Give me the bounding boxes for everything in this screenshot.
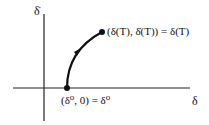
start-point — [64, 85, 70, 91]
phase-plane-diagram: δ̇ δ (δ(T), δ̇(T)) = δ(T) (δ⁰, 0) = δ⁰ — [0, 0, 209, 125]
start-point-label: (δ⁰, 0) = δ⁰ — [61, 95, 110, 106]
y-axis-label: δ̇ — [34, 5, 40, 17]
end-point-label: (δ(T), δ̇(T)) = δ(T) — [107, 26, 189, 37]
trajectory-curve — [67, 32, 102, 88]
x-axis-label: δ — [192, 95, 198, 107]
diagram-canvas — [0, 0, 209, 125]
end-point — [99, 29, 105, 35]
